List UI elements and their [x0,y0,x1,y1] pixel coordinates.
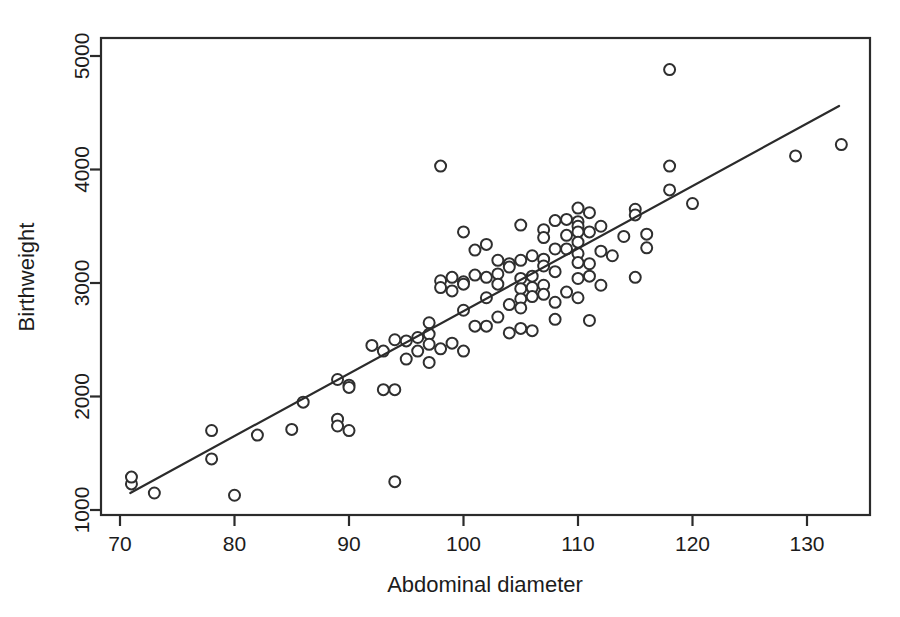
data-point [584,271,595,282]
data-point [664,184,675,195]
x-tick-label: 110 [561,532,594,555]
data-point [573,203,584,214]
data-point [481,272,492,283]
y-tick-label: 2000 [70,373,93,420]
data-point [344,425,355,436]
data-point [424,357,435,368]
data-point [435,343,446,354]
data-point [149,487,160,498]
x-tick-label: 130 [789,532,824,555]
data-point [664,161,675,172]
data-point [378,384,389,395]
data-point [527,291,538,302]
data-point [447,338,458,349]
x-tick-label: 120 [675,532,710,555]
data-point [561,287,572,298]
data-point [515,220,526,231]
data-point [641,242,652,253]
x-axis-tick-labels: 708090100110120130 [108,532,824,555]
y-tick-label: 3000 [70,260,93,307]
x-tick-label: 90 [337,532,360,555]
data-point [435,161,446,172]
data-point [458,226,469,237]
data-point [561,214,572,225]
data-point [401,354,412,365]
data-point [550,243,561,254]
data-point [286,424,297,435]
data-point [595,246,606,257]
x-tick-label: 100 [446,532,481,555]
data-point [252,430,263,441]
data-point [515,323,526,334]
data-point [538,289,549,300]
data-point [504,327,515,338]
data-point [481,239,492,250]
data-point [389,334,400,345]
data-point [389,476,400,487]
data-point [584,258,595,269]
data-point [630,272,641,283]
data-point [836,139,847,150]
data-point [412,346,423,357]
data-point [687,198,698,209]
scatter-plot-figure: 708090100110120130 10002000300040005000 … [0,0,900,617]
y-tick-label: 5000 [70,33,93,80]
data-point [515,302,526,313]
data-point [366,340,377,351]
data-point [344,382,355,393]
x-tick-label: 80 [223,532,246,555]
data-point [492,279,503,290]
data-point [584,207,595,218]
data-point [481,321,492,332]
data-point [332,421,343,432]
data-point [607,250,618,261]
y-tick-label: 1000 [70,487,93,534]
data-point [126,472,137,483]
data-point [584,315,595,326]
data-point [229,490,240,501]
data-point [573,257,584,268]
chart-canvas: 708090100110120130 10002000300040005000 … [0,0,900,617]
x-axis-title: Abdominal diameter [387,572,583,597]
data-point [389,384,400,395]
data-point [664,64,675,75]
y-tick-label: 4000 [70,146,93,193]
data-point [492,312,503,323]
data-point [641,229,652,240]
y-axis-title: Birthweight [14,223,39,332]
data-point [550,215,561,226]
data-point [527,250,538,261]
data-point [573,292,584,303]
regression-line [130,106,839,493]
y-axis-tick-labels: 10002000300040005000 [70,33,93,534]
data-point [492,255,503,266]
data-point [206,425,217,436]
data-point [206,453,217,464]
data-point [584,226,595,237]
data-point [458,279,469,290]
data-point [504,299,515,310]
data-point [790,150,801,161]
data-point [618,231,629,242]
data-point [469,321,480,332]
data-point [595,221,606,232]
data-point [550,266,561,277]
data-point [573,273,584,284]
data-point [550,314,561,325]
data-point [424,339,435,350]
data-point [447,285,458,296]
data-point [527,325,538,336]
data-point [435,282,446,293]
data-point [447,272,458,283]
data-point [595,280,606,291]
data-point [561,230,572,241]
data-point [469,270,480,281]
data-point [538,232,549,243]
data-point [458,346,469,357]
data-point [515,255,526,266]
data-point [504,262,515,273]
data-point [469,245,480,256]
x-tick-label: 70 [108,532,131,555]
data-point [550,297,561,308]
